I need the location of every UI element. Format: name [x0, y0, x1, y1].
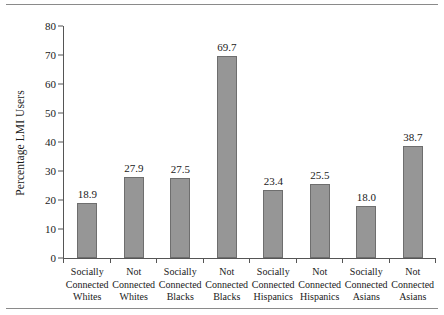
bar-value-label: 27.9 [111, 162, 158, 174]
bar[interactable] [356, 206, 376, 258]
bar-chart: Percentage LMI Users 80706050403020100 1… [0, 8, 444, 308]
y-axis-tick-label: 80 [45, 20, 56, 32]
x-axis-tick-mark [389, 258, 390, 263]
x-axis-category-label-line: Connected [158, 279, 203, 292]
x-axis-category-label: NotConnectedBlacks [204, 266, 251, 304]
plot-area: 18.927.927.569.723.425.518.038.7 [64, 26, 436, 258]
y-axis-title: Percentage LMI Users [12, 58, 28, 228]
x-axis-category-label-line: Not [112, 266, 157, 279]
x-axis-category-label-line: Connected [391, 279, 436, 292]
bar[interactable] [263, 190, 283, 258]
x-axis-category-label-line: Connected [298, 279, 343, 292]
x-axis-category-label: NotConnectedAsians [390, 266, 437, 304]
bar-value-label: 18.0 [343, 191, 390, 203]
x-axis-tick-labels: SociallyConnectedWhitesNotConnectedWhite… [64, 266, 436, 304]
bar-value-label: 23.4 [250, 175, 297, 187]
bar[interactable] [217, 56, 237, 258]
x-axis-category-label-line: Connected [205, 279, 250, 292]
bar[interactable] [310, 184, 330, 258]
x-axis-category-label-line: Connected [65, 279, 110, 292]
x-axis-category-label-line: Connected [251, 279, 296, 292]
x-axis-category-label-line: Connected [112, 279, 157, 292]
x-axis-tick-mark [203, 258, 204, 263]
bar-value-label: 27.5 [157, 163, 204, 175]
y-axis-tick-label: 20 [45, 194, 56, 206]
bar-value-label: 18.9 [64, 188, 111, 200]
x-axis-category-label-line: Not [391, 266, 436, 279]
bar[interactable] [170, 178, 190, 258]
figure-bottom-rule [6, 308, 438, 309]
y-axis-tick-label: 0 [51, 252, 57, 264]
x-axis-category-label-line: Not [205, 266, 250, 279]
x-axis-category-label: NotConnectedHispanics [297, 266, 344, 304]
x-axis-category-label: SociallyConnectedBlacks [157, 266, 204, 304]
bar-value-label: 69.7 [204, 41, 251, 53]
bar-series: 18.927.927.569.723.425.518.038.7 [64, 26, 436, 258]
y-axis-tick-label: 70 [45, 49, 56, 61]
x-axis-category-label-line: Connected [344, 279, 389, 292]
bar-slot: 27.5 [157, 26, 204, 258]
bar-slot: 18.0 [343, 26, 390, 258]
x-axis-category-label-line: Socially [158, 266, 203, 279]
x-axis-category-label-line: Socially [251, 266, 296, 279]
y-axis-tick-label: 50 [45, 107, 56, 119]
bar-slot: 18.9 [64, 26, 111, 258]
x-axis-category-label-line: Blacks [158, 291, 203, 304]
x-axis-category-label: NotConnectedWhites [111, 266, 158, 304]
x-axis-tick-mark [156, 258, 157, 263]
x-axis-category-label: SociallyConnectedWhites [64, 266, 111, 304]
x-axis-category-label-line: Blacks [205, 291, 250, 304]
bar-slot: 27.9 [111, 26, 158, 258]
x-axis-category-label-line: Socially [344, 266, 389, 279]
bar[interactable] [124, 177, 144, 258]
y-axis-tick-label: 40 [45, 136, 56, 148]
x-axis-category-label-line: Whites [112, 291, 157, 304]
x-axis-category-label-line: Asians [391, 291, 436, 304]
figure-top-rule [6, 4, 438, 5]
x-axis-tick-mark [296, 258, 297, 263]
x-axis-category-label-line: Not [298, 266, 343, 279]
x-axis-category-label: SociallyConnectedAsians [343, 266, 390, 304]
x-axis-category-label-line: Asians [344, 291, 389, 304]
x-axis-tick-mark [342, 258, 343, 263]
x-axis-tick-mark [63, 258, 64, 263]
x-axis-category-label-line: Whites [65, 291, 110, 304]
bar-slot: 38.7 [390, 26, 437, 258]
bar-slot: 25.5 [297, 26, 344, 258]
bar-slot: 23.4 [250, 26, 297, 258]
x-axis-tick-mark [110, 258, 111, 263]
y-axis-tick-label: 60 [45, 78, 56, 90]
bar[interactable] [403, 146, 423, 258]
bar[interactable] [77, 203, 97, 258]
x-axis-category-label-line: Hispanics [298, 291, 343, 304]
x-axis-category-label: SociallyConnectedHispanics [250, 266, 297, 304]
x-axis-category-label-line: Hispanics [251, 291, 296, 304]
x-axis-tick-mark [435, 258, 436, 263]
bar-value-label: 25.5 [297, 169, 344, 181]
x-axis-tick-mark [249, 258, 250, 263]
y-axis-tick-labels: 80706050403020100 [30, 26, 56, 258]
y-axis-title-text: Percentage LMI Users [14, 90, 26, 195]
x-axis-category-label-line: Socially [65, 266, 110, 279]
bar-slot: 69.7 [204, 26, 251, 258]
y-axis-tick-label: 10 [45, 223, 56, 235]
bar-value-label: 38.7 [390, 131, 437, 143]
y-axis-tick-label: 30 [45, 165, 56, 177]
